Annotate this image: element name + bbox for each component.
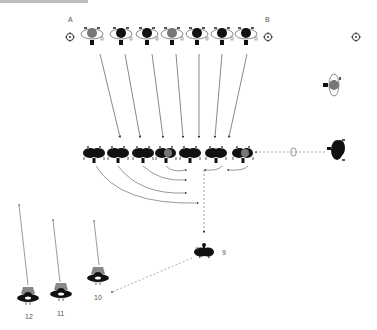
large-dark-complex xyxy=(327,139,345,161)
ring-icon-b xyxy=(263,32,273,42)
middle-complex-4 xyxy=(155,146,177,163)
label-10: 10 xyxy=(94,294,102,301)
top-complex-3 xyxy=(136,27,158,45)
top-complex-4 xyxy=(161,27,183,45)
node-10-complex xyxy=(87,267,109,285)
top-complex-7 xyxy=(235,27,257,45)
middle-complex-6 xyxy=(205,146,227,163)
middle-complex-2 xyxy=(107,146,129,163)
top-to-middle-arrows xyxy=(100,54,247,137)
node-12-complex xyxy=(17,287,39,305)
assembly-pathway-diagram: A B xyxy=(0,0,377,330)
node-11-complex xyxy=(50,283,72,301)
label-12: 12 xyxy=(25,313,33,320)
upward-arrows xyxy=(19,205,99,285)
middle-row-complexes xyxy=(83,146,254,163)
label-9: 9 xyxy=(222,249,226,256)
top-complex-6 xyxy=(211,27,233,45)
middle-complex-7 xyxy=(232,146,254,163)
node-9-complex xyxy=(194,243,214,258)
ring-icon-a xyxy=(65,32,75,42)
middle-complex-5 xyxy=(179,146,201,163)
upright-side-complex xyxy=(323,74,341,96)
middle-complex-3 xyxy=(132,146,154,163)
top-complex-5 xyxy=(186,27,208,45)
label-11: 11 xyxy=(57,310,64,317)
converging-curves xyxy=(96,166,248,203)
top-row-complexes xyxy=(81,27,257,45)
top-complex-1 xyxy=(81,27,103,45)
dashed-arrow-9-to-10 xyxy=(112,258,192,292)
label-b: B xyxy=(265,16,270,23)
ring-icon-right xyxy=(351,32,361,42)
label-a: A xyxy=(68,16,73,23)
middle-complex-1 xyxy=(83,146,105,163)
top-complex-2 xyxy=(110,27,132,45)
